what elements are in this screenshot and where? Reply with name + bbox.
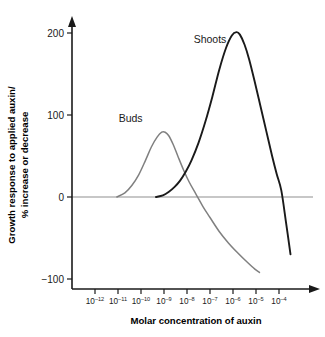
x-tick-label: 10–4 xyxy=(271,296,286,306)
x-tick-label: 10–7 xyxy=(202,296,217,306)
y-tick-label: 200 xyxy=(47,28,64,39)
auxin-growth-response-chart: 2001000−100 10–1210–1110–1010–910–810–71… xyxy=(0,0,325,337)
y-axis-title-line2: % increase or decrease xyxy=(19,112,30,219)
x-tick-label: 10–8 xyxy=(179,296,194,306)
x-tick-label: 10–10 xyxy=(132,296,150,306)
x-tick-label: 10–11 xyxy=(109,296,127,306)
data-series-curves xyxy=(117,32,291,272)
y-axis-title: Growth response to applied auxin/ % incr… xyxy=(6,86,30,244)
chart-canvas: 2001000−100 10–1210–1110–1010–910–810–71… xyxy=(0,0,325,337)
curve-buds xyxy=(117,132,260,273)
y-axis-title-line1: Growth response to applied auxin/ xyxy=(6,86,17,244)
y-tick-label: 0 xyxy=(58,192,64,203)
series-label-shoots: Shoots xyxy=(194,33,227,45)
x-axis-title: Molar concentration of auxin xyxy=(130,315,261,326)
x-tick-label: 10–12 xyxy=(86,296,104,306)
series-annotations: BudsShoots xyxy=(119,33,227,124)
x-tick-label: 10–5 xyxy=(248,296,263,306)
y-tick-label: −100 xyxy=(41,274,64,285)
series-label-buds: Buds xyxy=(119,112,143,124)
curve-shoots xyxy=(156,32,291,254)
x-axis xyxy=(72,285,320,293)
x-tick-label: 10–6 xyxy=(225,296,240,306)
y-axis-tick-labels: 2001000−100 xyxy=(41,28,64,285)
y-axis xyxy=(68,16,76,289)
x-axis-tick-labels: 10–1210–1110–1010–910–810–710–610–510–4 xyxy=(86,296,287,306)
y-tick-label: 100 xyxy=(47,110,64,121)
x-tick-label: 10–9 xyxy=(156,296,171,306)
